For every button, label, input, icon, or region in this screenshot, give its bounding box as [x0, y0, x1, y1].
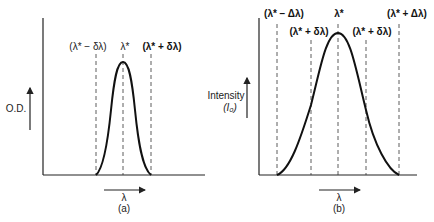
panel-a: (λ* − δλ) λ* (λ* + δλ) O.D. λ (a)	[6, 18, 205, 214]
marker-label: (λ* + δλ)	[142, 41, 181, 52]
y-label: Intensity	[207, 90, 244, 101]
caption: (b)	[333, 203, 345, 214]
marker-label: (λ* − δλ)	[69, 41, 106, 52]
x-label: λ	[337, 192, 342, 203]
caption: (a)	[118, 203, 130, 214]
marker-label: (λ* − Δλ)	[264, 8, 304, 19]
panel-b: (λ* − Δλ) (λ* + δλ) λ* (λ* + δλ) (λ* + Δ…	[207, 8, 427, 214]
marker-label: λ*	[334, 8, 344, 19]
marker-label: (λ* + Δλ)	[387, 8, 427, 19]
y-label: O.D.	[6, 103, 27, 114]
marker-label: λ*	[121, 41, 130, 52]
figure: (λ* − δλ) λ* (λ* + δλ) O.D. λ (a) (λ* − …	[0, 0, 434, 222]
y-label-symbol: (I₀)	[223, 102, 237, 113]
marker-label: (λ* + δλ)	[352, 26, 391, 37]
x-label: λ	[122, 192, 127, 203]
marker-label: (λ* + δλ)	[289, 26, 328, 37]
od-curve	[96, 62, 151, 175]
